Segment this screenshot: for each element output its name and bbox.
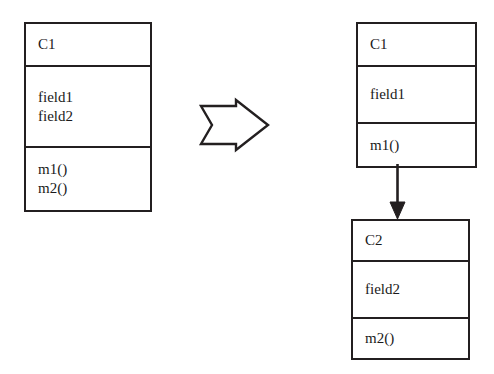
block-arrow-right-icon <box>201 100 268 150</box>
arrow-down-icon <box>390 202 405 219</box>
operation-item: m1() <box>38 160 150 179</box>
uml-class-before-c1[interactable]: C1 field1 field2 m1() m2() <box>24 22 152 212</box>
operation-item: m2() <box>38 179 150 198</box>
class-connector <box>384 164 412 222</box>
class-operations-compartment: m1() m2() <box>26 146 150 210</box>
uml-class-after-c1[interactable]: C1 field1 m1() <box>356 22 477 168</box>
transform-arrow <box>196 96 274 154</box>
class-operations-compartment: m2() <box>353 317 468 358</box>
operation-item: m1() <box>370 136 475 155</box>
diagram-canvas: C1 field1 field2 m1() m2() C1 field1 m1(… <box>0 0 494 374</box>
class-name-compartment: C1 <box>358 24 475 65</box>
field-item: field1 <box>370 85 475 104</box>
uml-class-after-c2[interactable]: C2 field2 m2() <box>351 219 470 360</box>
class-operations-compartment: m1() <box>358 122 475 166</box>
class-name-label: C2 <box>365 231 468 250</box>
class-name-compartment: C2 <box>353 221 468 260</box>
field-item: field2 <box>365 280 468 299</box>
class-name-compartment: C1 <box>26 24 150 65</box>
field-item: field1 <box>38 88 150 107</box>
class-fields-compartment: field1 field2 <box>26 65 150 146</box>
class-fields-compartment: field1 <box>358 65 475 122</box>
class-name-label: C1 <box>38 35 150 54</box>
class-fields-compartment: field2 <box>353 260 468 317</box>
class-name-label: C1 <box>370 35 475 54</box>
field-item: field2 <box>38 107 150 126</box>
operation-item: m2() <box>365 329 468 348</box>
